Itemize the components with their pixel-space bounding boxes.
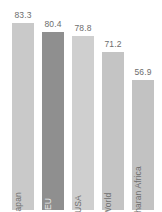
bar-category-label: Sub-Saharan Africa: [133, 166, 143, 212]
bar-group: 71.2 World: [102, 52, 124, 210]
bar-rect[interactable]: World: [102, 52, 124, 210]
plot-area: 83.3 Japan 80.4 EU 78.8 USA 71.2 World 5…: [0, 0, 162, 212]
bar-chart: 83.3 Japan 80.4 EU 78.8 USA 71.2 World 5…: [0, 0, 162, 212]
bar-group: 80.4 EU: [42, 32, 64, 210]
bar-value-label: 71.2: [105, 39, 122, 49]
bar-value-label: 83.3: [15, 10, 32, 20]
bar-value-label: 80.4: [45, 19, 62, 29]
bar-rect[interactable]: Sub-Saharan Africa: [132, 80, 154, 210]
bar-group: 56.9 Sub-Saharan Africa: [132, 80, 154, 210]
bar-rect[interactable]: EU: [42, 32, 64, 210]
bar-value-label: 56.9: [135, 67, 152, 77]
bar-group: 83.3 Japan: [12, 23, 34, 210]
bar-rect[interactable]: Japan: [12, 23, 34, 210]
bar-group: 78.8 USA: [72, 36, 94, 210]
bar-category-label: EU: [43, 198, 53, 210]
bar-category-label: USA: [73, 195, 83, 212]
bar-rect[interactable]: USA: [72, 36, 94, 210]
bar-value-label: 78.8: [75, 23, 92, 33]
bar-category-label: World: [103, 193, 113, 212]
bar-category-label: Japan: [13, 192, 23, 212]
